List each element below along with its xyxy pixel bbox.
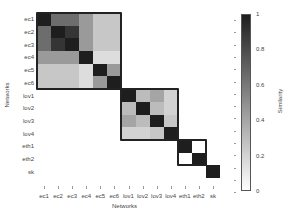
colorbar-minor-tick (234, 82, 236, 83)
colorbar-tick-label: 0.2 (256, 153, 264, 159)
x-tick-label: eth1 (178, 193, 192, 199)
heatmap-cell (150, 26, 165, 39)
heatmap-cell (51, 89, 66, 102)
heatmap-cell (107, 13, 122, 26)
heatmap-cell (65, 89, 80, 102)
heatmap-cell (121, 89, 136, 102)
x-tick-mark (171, 186, 172, 189)
y-tick-label: ec4 (0, 54, 34, 60)
x-tick-mark (114, 186, 115, 189)
heatmap-cell (136, 153, 151, 166)
heatmap-cell (93, 165, 108, 178)
heatmap-cell (51, 140, 66, 153)
heatmap-cell (192, 64, 207, 77)
heatmap-cell (121, 76, 136, 89)
heatmap-cell (206, 13, 221, 26)
heatmap-cell (164, 102, 179, 115)
x-tick-mark (213, 186, 214, 189)
y-tick-label: ec3 (0, 42, 34, 48)
heatmap-cell (164, 26, 179, 39)
heatmap-cell (37, 153, 52, 166)
heatmap-cell (107, 26, 122, 39)
similarity-heatmap (37, 13, 220, 178)
heatmap-cell (93, 13, 108, 26)
x-tick-label: ec3 (65, 193, 79, 199)
heatmap-cell (79, 140, 94, 153)
heatmap-cell (164, 89, 179, 102)
colorbar-minor-tick (234, 20, 236, 21)
heatmap-cell (192, 76, 207, 89)
heatmap-cell (192, 51, 207, 64)
heatmap-cell (51, 76, 66, 89)
heatmap-cell (136, 76, 151, 89)
x-tick-mark (129, 186, 130, 189)
heatmap-cell (93, 127, 108, 140)
heatmap-cell (121, 153, 136, 166)
heatmap-cell (164, 64, 179, 77)
colorbar (241, 14, 251, 191)
heatmap-cell (51, 127, 66, 140)
heatmap-cell (178, 26, 193, 39)
heatmap-cell (51, 102, 66, 115)
x-tick-label: ec1 (37, 193, 51, 199)
x-tick-label: ec2 (51, 193, 65, 199)
heatmap-cell (150, 64, 165, 77)
heatmap-cell (37, 64, 52, 77)
heatmap-cell (65, 64, 80, 77)
heatmap-cell (121, 38, 136, 51)
colorbar-title: Similarity (277, 81, 283, 121)
heatmap-cell (51, 64, 66, 77)
heatmap-cell (65, 38, 80, 51)
heatmap-cell (206, 64, 221, 77)
heatmap-cell (136, 140, 151, 153)
y-tick-label: sk (0, 169, 34, 175)
heatmap-cell (178, 165, 193, 178)
colorbar-minor-tick (234, 180, 236, 181)
heatmap-cell (107, 102, 122, 115)
heatmap-cell (107, 127, 122, 140)
heatmap-cell (192, 115, 207, 128)
heatmap-cell (150, 102, 165, 115)
heatmap-cell (192, 13, 207, 26)
x-tick-mark (72, 186, 73, 189)
x-tick-mark (143, 186, 144, 189)
heatmap-cell (178, 64, 193, 77)
x-tick-mark (157, 186, 158, 189)
heatmap-cell (164, 140, 179, 153)
heatmap-cell (37, 38, 52, 51)
colorbar-tick-label: 0.6 (256, 82, 264, 88)
x-tick-label: eth2 (192, 193, 206, 199)
heatmap-cell (79, 26, 94, 39)
y-tick-label: lov3 (0, 118, 34, 124)
heatmap-cell (79, 153, 94, 166)
x-tick-mark (185, 186, 186, 189)
heatmap-cell (79, 76, 94, 89)
heatmap-cell (79, 13, 94, 26)
heatmap-cell (164, 153, 179, 166)
heatmap-cell (206, 51, 221, 64)
colorbar-minor-tick (234, 57, 236, 58)
heatmap-cell (37, 26, 52, 39)
x-tick-mark (44, 186, 45, 189)
x-axis-title-text: Networks (112, 203, 137, 209)
heatmap-cell (37, 51, 52, 64)
heatmap-cell (164, 165, 179, 178)
colorbar-minor-tick (234, 94, 236, 95)
colorbar-minor-tick (234, 131, 236, 132)
heatmap-cell (121, 102, 136, 115)
heatmap-cell (107, 76, 122, 89)
heatmap-cell (150, 89, 165, 102)
heatmap-cell (206, 153, 221, 166)
x-tick-label: lov2 (136, 193, 150, 199)
heatmap-cell (51, 165, 66, 178)
heatmap-cell (51, 26, 66, 39)
heatmap-cell (164, 115, 179, 128)
colorbar-minor-tick (234, 106, 236, 107)
heatmap-cell (150, 51, 165, 64)
heatmap-cell (79, 115, 94, 128)
heatmap-cell (192, 153, 207, 166)
heatmap-cell (136, 115, 151, 128)
heatmap-cell (107, 51, 122, 64)
heatmap-cell (192, 26, 207, 39)
heatmap-cell (178, 127, 193, 140)
